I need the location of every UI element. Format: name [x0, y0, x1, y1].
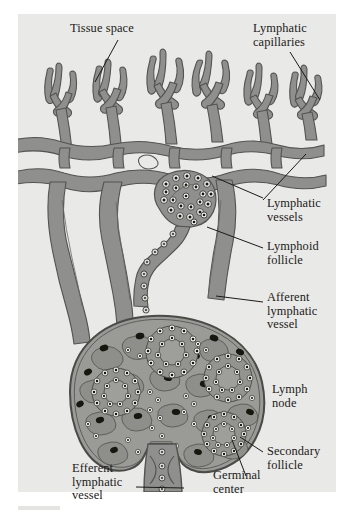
lymphatic-capillary-network	[14, 49, 326, 192]
label-germinal-center: Germinalcenter	[213, 469, 261, 496]
efferent-lymphatic-vessel	[144, 444, 182, 492]
label-tissue-space: Tissue space	[70, 22, 134, 36]
lymphatic-system-figure: Tissue space Lymphaticcapillaries Lympha…	[0, 0, 354, 530]
bottom-rule	[18, 506, 60, 510]
label-lymph-node: Lymphnode	[272, 383, 308, 410]
label-lymphatic-vessels: Lymphaticvessels	[267, 197, 321, 224]
label-secondary-follicle: Secondaryfollicle	[267, 445, 320, 472]
label-afferent-lymphatic-vessel: Afferentlymphaticvessel	[267, 291, 317, 332]
label-lymphatic-capillaries: Lymphaticcapillaries	[253, 22, 307, 49]
label-lymphoid-follicle: Lymphoidfollicle	[267, 240, 319, 267]
label-efferent-lymphatic-vessel: Efferentlymphaticvessel	[72, 462, 122, 503]
lymphoid-follicle	[134, 170, 216, 313]
